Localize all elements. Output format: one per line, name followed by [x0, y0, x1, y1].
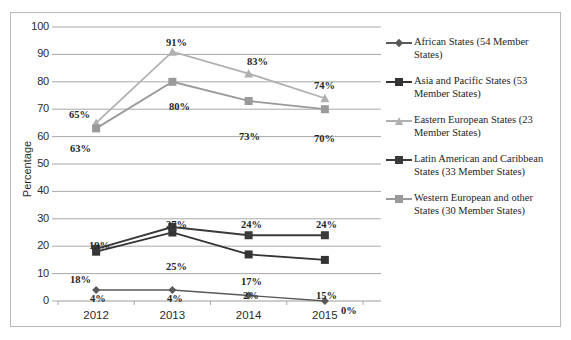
square-marker [92, 124, 100, 132]
data-label: 19% [89, 240, 110, 251]
series-2 [92, 47, 330, 127]
legend-key [386, 36, 412, 50]
chart-legend: African States (54 Member States)Asia an… [386, 35, 558, 230]
legend-label: Asia and Pacific States (53 Member State… [414, 74, 558, 100]
y-tick-label: 50 [23, 157, 49, 169]
data-label: 91% [166, 37, 187, 48]
square-marker [245, 231, 253, 239]
data-label: 24% [241, 219, 262, 230]
data-label: 80% [169, 101, 190, 112]
legend-key [386, 114, 412, 128]
legend-label: Western European and other States (30 Me… [414, 191, 558, 217]
series-line [96, 82, 325, 129]
square-marker [321, 256, 329, 264]
data-label: 70% [314, 133, 335, 144]
series-layer [92, 47, 330, 305]
data-label: 2% [243, 290, 259, 301]
square-marker [321, 231, 329, 239]
square-marker [245, 97, 253, 105]
gridlines [52, 27, 381, 301]
x-tick-label: 2014 [219, 309, 279, 321]
x-tick-label: 2012 [66, 309, 126, 321]
series-line [96, 290, 325, 301]
data-label: 18% [70, 274, 91, 285]
data-label: 25% [166, 261, 187, 272]
triangle-marker [168, 47, 177, 56]
y-tick-label: 90 [23, 47, 49, 59]
data-label: 15% [316, 290, 337, 301]
square-marker [395, 156, 403, 164]
square-marker [321, 105, 329, 113]
legend-key [386, 192, 412, 206]
data-label: 83% [247, 56, 268, 67]
data-label: 17% [241, 276, 262, 287]
legend-key [386, 153, 412, 167]
data-label: 27% [166, 219, 187, 230]
y-tick-label: 60 [23, 130, 49, 142]
x-tick-label: 2013 [142, 309, 202, 321]
legend-key [386, 75, 412, 89]
series-3 [92, 223, 329, 253]
legend-item-1[interactable]: Asia and Pacific States (53 Member State… [386, 74, 558, 100]
legend-item-2[interactable]: Eastern European States (23 Member State… [386, 113, 558, 139]
legend-item-3[interactable]: Latin American and Caribbean States (33 … [386, 152, 558, 178]
square-marker [395, 78, 403, 86]
data-label: 74% [314, 80, 335, 91]
square-marker [245, 250, 253, 258]
data-label: 65% [69, 109, 90, 120]
diamond-marker [395, 39, 403, 47]
cropped-caption-remnant [0, 0, 571, 6]
y-tick-label: 30 [23, 212, 49, 224]
data-label: 0% [341, 305, 357, 316]
data-label: 73% [239, 131, 260, 142]
y-tick-label: 80 [23, 75, 49, 87]
triangle-marker [395, 117, 403, 125]
data-label: 4% [90, 293, 106, 304]
square-marker [168, 78, 176, 86]
data-label: 24% [316, 219, 337, 230]
y-tick-label: 0 [23, 294, 49, 306]
series-line [96, 52, 325, 123]
y-tick-label: 70 [23, 102, 49, 114]
chart-container: Percentage 1009080706050403020100 201220… [10, 12, 561, 327]
y-tick-label: 20 [23, 239, 49, 251]
legend-label: African States (54 Member States) [414, 35, 558, 61]
legend-item-4[interactable]: Western European and other States (30 Me… [386, 191, 558, 217]
data-label: 63% [70, 143, 91, 154]
y-tick-label: 10 [23, 267, 49, 279]
legend-label: Latin American and Caribbean States (33 … [414, 152, 558, 178]
legend-item-0[interactable]: African States (54 Member States) [386, 35, 558, 61]
y-tick-label: 100 [23, 20, 49, 32]
series-4 [92, 78, 329, 133]
data-label: 4% [167, 293, 183, 304]
series-line [96, 227, 325, 249]
y-tick-label: 40 [23, 184, 49, 196]
legend-label: Eastern European States (23 Member State… [414, 113, 558, 139]
square-marker [395, 195, 403, 203]
